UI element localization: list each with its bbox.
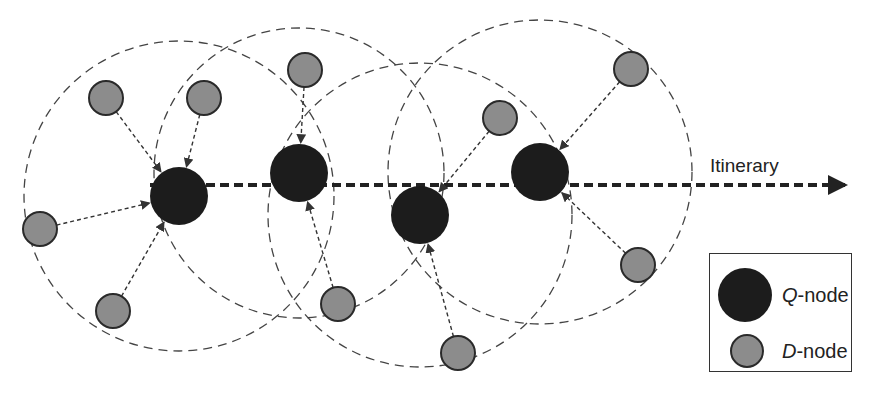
edge-arrow <box>121 222 164 296</box>
d-node <box>89 81 123 115</box>
q-node <box>511 143 569 201</box>
edge-arrow <box>308 202 334 288</box>
q-node-swatch-icon <box>718 268 772 322</box>
edge-arrow <box>186 114 199 166</box>
itinerary-label: Itinerary <box>710 155 779 176</box>
legend-label-d-node: D-node <box>782 340 848 363</box>
legend-item-d-node: D-node <box>730 334 848 368</box>
edge-arrow <box>560 82 620 150</box>
edge-arrow <box>301 87 304 143</box>
q-node <box>150 167 208 225</box>
d-node <box>614 52 648 86</box>
d-node <box>621 248 655 282</box>
d-node <box>187 81 221 115</box>
d-node <box>441 336 475 370</box>
q-node <box>391 186 449 244</box>
d-node <box>483 101 517 135</box>
q-node <box>270 144 328 202</box>
legend-label-q-node: Q-node <box>782 284 849 307</box>
d-node-swatch-icon <box>730 334 764 368</box>
edge-arrow <box>428 244 454 337</box>
d-node <box>288 53 322 87</box>
edge-arrow <box>116 112 161 172</box>
d-node <box>321 287 355 321</box>
d-node <box>96 294 130 328</box>
edge-arrow <box>439 131 489 192</box>
legend: Q-node D-node <box>709 253 852 372</box>
d-node <box>23 212 57 246</box>
edge-arrow <box>57 203 150 225</box>
q-nodes <box>150 143 569 244</box>
legend-item-q-node: Q-node <box>718 268 849 322</box>
